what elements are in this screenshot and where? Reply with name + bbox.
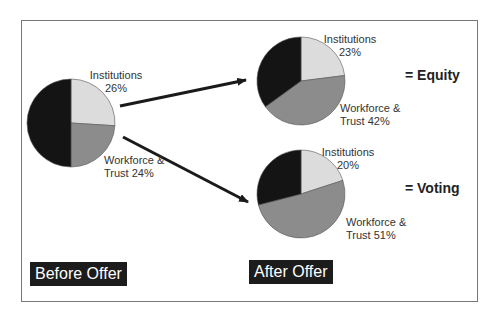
after-offer-tag: After Offer xyxy=(249,260,333,284)
before-institutions-label: Institutions26% xyxy=(84,69,148,95)
equity-workforce-label: Workforce &Trust 42% xyxy=(340,102,400,128)
before-offer-tag: Before Offer xyxy=(30,262,127,286)
voting-label: = Voting xyxy=(405,180,460,196)
equity-label: = Equity xyxy=(405,67,460,83)
voting-workforce-label: Workforce &Trust 51% xyxy=(346,216,406,242)
before-workforce-label: Workforce &Trust 24% xyxy=(104,154,164,180)
pie-slice-other xyxy=(27,79,71,167)
equity-institutions-label: Institutions23% xyxy=(318,33,382,59)
voting-institutions-label: Institutions20% xyxy=(316,146,380,172)
